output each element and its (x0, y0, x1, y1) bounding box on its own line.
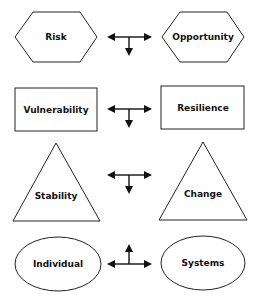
row-individual-systems: Individual Systems (15, 236, 245, 291)
label-change: Change (184, 189, 222, 199)
row-stability-change: Stability Change (13, 142, 247, 221)
label-vulnerability: Vulnerability (23, 105, 88, 115)
double-arrow-with-down-stem-icon (107, 33, 152, 56)
row-risk-opportunity: Risk Opportunity (15, 12, 244, 62)
triangle-stability (13, 143, 100, 221)
label-individual: Individual (33, 259, 83, 269)
double-arrow-with-down-stem-icon (107, 171, 152, 194)
row-vulnerability-resilience: Vulnerability Resilience (15, 86, 244, 131)
label-opportunity: Opportunity (172, 32, 234, 42)
triangle-change (159, 142, 247, 220)
label-resilience: Resilience (177, 103, 229, 113)
label-risk: Risk (45, 32, 67, 42)
double-arrow-with-down-stem-icon (107, 105, 152, 128)
label-systems: Systems (182, 258, 225, 268)
diagram-canvas: Risk Opportunity Vulnerability Resilienc… (0, 0, 256, 300)
label-stability: Stability (35, 191, 78, 201)
double-arrow-with-up-stem-icon (107, 244, 152, 268)
